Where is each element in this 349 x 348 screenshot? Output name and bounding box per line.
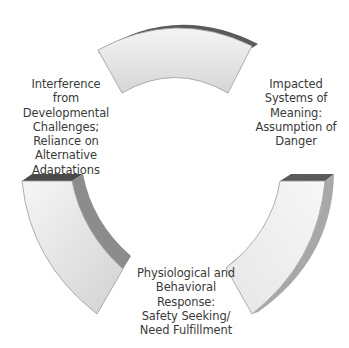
label-line: Behavioral [124, 280, 248, 294]
label-line: Assumption of [246, 120, 346, 134]
label-line: Danger [246, 134, 346, 148]
arc-segment-left [22, 174, 131, 314]
label-line: Reliance on [4, 134, 128, 148]
label-line: from [4, 91, 128, 105]
label-line: Adaptations [4, 163, 128, 177]
label-line: Physiological and [124, 266, 248, 280]
label-line: Impacted [246, 77, 346, 91]
label-line: Safety Seeking/ [124, 309, 248, 323]
label-line: Response: [124, 295, 248, 309]
label-line: Systems of [246, 91, 346, 105]
node-label-impacted-systems: Impacted Systems of Meaning: Assumption … [246, 77, 346, 148]
label-line: Challenges; [4, 120, 128, 134]
arc-right-top-band [280, 174, 334, 181]
label-line: Meaning: [246, 106, 346, 120]
label-line: Interference [4, 77, 128, 91]
node-label-interference-developmental: Interference from Developmental Challeng… [4, 77, 128, 177]
label-line: Need Fulfillment [124, 323, 248, 337]
label-line: Developmental [4, 106, 128, 120]
node-label-physiological-response: Physiological and Behavioral Response: S… [124, 266, 248, 337]
label-line: Alternative [4, 148, 128, 162]
